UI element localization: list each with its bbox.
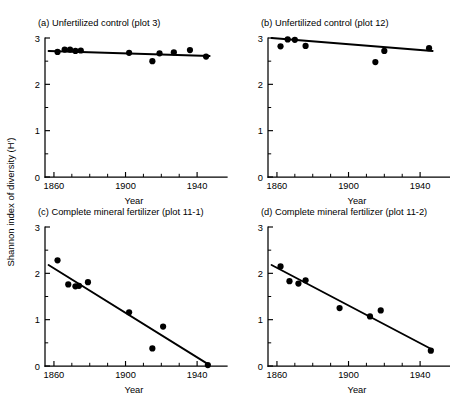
x-tick-label: 1900 [338,370,359,380]
y-tick-label: 1 [258,315,263,325]
data-point [126,50,132,56]
x-tick-label: 1940 [187,181,208,191]
data-point [72,48,78,54]
y-tick-label: 2 [258,80,263,90]
y-tick-label: 1 [35,315,40,325]
panel-a: (a) Unfertilized control (plot 3)0123186… [35,18,227,206]
data-point [336,305,342,311]
y-tick-label: 3 [258,34,263,44]
x-axis-title-c: Year [125,385,144,395]
data-point [156,50,162,56]
x-axis-title-d: Year [348,385,367,395]
data-point [65,281,71,287]
y-tick-label: 1 [258,126,263,136]
data-point [67,46,73,52]
y-tick-label: 0 [35,173,40,183]
y-tick-label: 0 [258,173,263,183]
x-tick-label: 1940 [410,181,431,191]
data-point [285,36,291,42]
data-point [428,348,434,354]
data-point [78,47,84,53]
x-tick-label: 1940 [187,370,208,380]
y-tick-label: 0 [258,362,263,372]
data-point [205,362,211,368]
data-point [277,43,283,49]
panel-d: (d) Complete mineral fertilizer (plot 11… [258,207,450,395]
panel-title-b: (b) Unfertilized control (plot 12) [261,18,389,28]
y-tick-label: 2 [258,269,263,279]
x-tick-label: 1900 [338,181,359,191]
data-point [286,278,292,284]
x-tick-label: 1860 [44,370,65,380]
panel-c: (c) Complete mineral fertilizer (plot 11… [35,207,227,395]
data-point [187,47,193,53]
data-point [54,49,60,55]
data-point [62,46,68,52]
panel-b: (b) Unfertilized control (plot 12)012318… [258,18,450,206]
data-point [367,313,373,319]
x-tick-label: 1940 [410,370,431,380]
data-point [302,277,308,283]
data-point [381,48,387,54]
y-axis-title: Shannon index of diversity (H′) [5,137,16,266]
x-tick-label: 1900 [115,181,136,191]
panel-title-d: (d) Complete mineral fertilizer (plot 11… [261,207,427,217]
data-point [76,283,82,289]
data-point [372,59,378,65]
data-point [426,45,432,51]
x-tick-label: 1860 [44,181,65,191]
y-tick-label: 3 [258,223,263,233]
x-tick-label: 1860 [267,370,288,380]
four-panel-scatter-figure: (a) Unfertilized control (plot 3)0123186… [0,0,450,401]
data-point [203,53,209,59]
figure-container: (a) Unfertilized control (plot 3)0123186… [0,0,450,401]
y-tick-label: 3 [35,223,40,233]
y-tick-label: 0 [35,362,40,372]
x-axis-title-a: Year [125,196,144,206]
panel-title-a: (a) Unfertilized control (plot 3) [38,18,160,28]
data-point [302,43,308,49]
data-point [85,279,91,285]
data-point [378,307,384,313]
x-tick-label: 1900 [115,370,136,380]
x-axis-title-b: Year [348,196,367,206]
y-tick-label: 3 [35,34,40,44]
data-point [149,58,155,64]
x-tick-label: 1860 [267,181,288,191]
y-tick-label: 2 [35,269,40,279]
panel-title-c: (c) Complete mineral fertilizer (plot 11… [38,207,204,217]
data-point [295,280,301,286]
data-point [277,263,283,269]
y-tick-label: 2 [35,80,40,90]
data-point [292,37,298,43]
data-point [54,257,60,263]
data-point [149,345,155,351]
data-point [160,324,166,330]
y-tick-label: 1 [35,126,40,136]
data-point [171,49,177,55]
regression-line-d [272,265,433,350]
data-point [126,309,132,315]
